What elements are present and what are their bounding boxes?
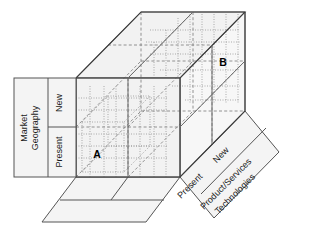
left-cell-new-label: New xyxy=(54,94,64,113)
left-axis-title-line1: Market xyxy=(19,114,29,142)
marker-a-label: A xyxy=(93,148,101,160)
diagram-canvas: Present New Market Need Present New Prod… xyxy=(0,0,312,236)
left-axis-title-line2: Geography xyxy=(30,105,40,150)
marker-b-label: B xyxy=(219,56,227,68)
left-axis-panel: Market Geography New Present xyxy=(14,78,76,177)
cube-diagram-svg: Present New Market Need Present New Prod… xyxy=(0,0,312,236)
left-cell-present-label: Present xyxy=(54,136,64,168)
bottom-axis-panel: Present New Market Need xyxy=(0,177,180,222)
